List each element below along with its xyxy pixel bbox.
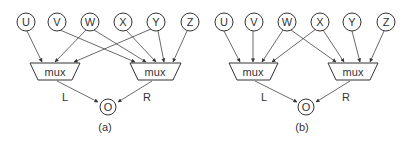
mux-a-right: mux [130, 63, 181, 80]
node-a-W: W [81, 13, 99, 31]
svg-text:X: X [119, 16, 127, 28]
edge-a-U-L [27, 31, 42, 62]
edge-b-Z-R [370, 31, 384, 62]
node-a-Y: Y [147, 13, 165, 31]
node-b-Y: Y [343, 13, 361, 31]
label-b-R: R [342, 91, 350, 103]
svg-text:Y: Y [152, 16, 160, 28]
edge-b-X-R [323, 30, 344, 62]
node-b-W: W [278, 13, 296, 31]
node-b-O: O [298, 99, 314, 115]
edge-b-Y-R [352, 31, 360, 62]
edge-b-U-L [224, 31, 240, 62]
svg-text:Z: Z [187, 16, 194, 28]
node-b-X: X [311, 13, 329, 31]
svg-text:O: O [104, 101, 113, 113]
caption-b: (b) [295, 121, 308, 133]
svg-text:X: X [316, 16, 324, 28]
svg-text:Y: Y [348, 16, 356, 28]
edge-a-Y-R [158, 31, 164, 62]
edge-b-W-R [291, 30, 336, 62]
svg-text:U: U [22, 16, 30, 28]
diagram-b: U V W X Y Z mux mux L R O (b) [215, 13, 395, 133]
svg-text:mux: mux [243, 66, 264, 78]
label-a-R: R [143, 91, 151, 103]
svg-text:V: V [250, 16, 258, 28]
edge-b-X-L [272, 29, 316, 62]
svg-text:W: W [85, 16, 96, 28]
node-b-V: V [245, 13, 263, 31]
diagram-a: U V W X Y Z mux mux L R O (a) [17, 13, 199, 133]
svg-text:U: U [220, 16, 228, 28]
mux-b-left: mux [229, 63, 278, 80]
edge-a-X-R [126, 30, 156, 62]
node-a-X: X [114, 13, 132, 31]
label-b-L: L [261, 91, 267, 103]
mux-a-left: mux [30, 63, 80, 80]
edge-b-W-L [262, 30, 283, 62]
node-b-U: U [215, 13, 233, 31]
svg-text:mux: mux [45, 66, 66, 78]
edge-a-Y-L [74, 29, 151, 62]
diagram-canvas: U V W X Y Z mux mux L R O (a) [0, 0, 414, 145]
label-a-L: L [62, 91, 68, 103]
edge-a-Z-R [173, 31, 187, 62]
node-b-Z: Z [377, 13, 395, 31]
svg-text:mux: mux [145, 66, 166, 78]
node-a-V: V [48, 13, 66, 31]
svg-text:mux: mux [343, 66, 364, 78]
svg-text:O: O [302, 101, 311, 113]
svg-text:Z: Z [383, 16, 390, 28]
mux-b-right: mux [328, 63, 378, 80]
node-a-O: O [100, 99, 116, 115]
svg-text:V: V [53, 16, 61, 28]
node-a-U: U [17, 13, 35, 31]
caption-a: (a) [98, 121, 111, 133]
node-a-Z: Z [181, 13, 199, 31]
svg-text:W: W [282, 16, 293, 28]
edge-a-V-R [60, 30, 135, 62]
